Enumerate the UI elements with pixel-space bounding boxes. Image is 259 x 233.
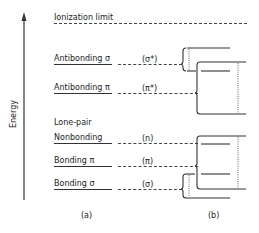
band-diagram <box>0 0 259 233</box>
caption-b: (b) <box>208 211 219 220</box>
caption-a: (a) <box>81 211 92 220</box>
